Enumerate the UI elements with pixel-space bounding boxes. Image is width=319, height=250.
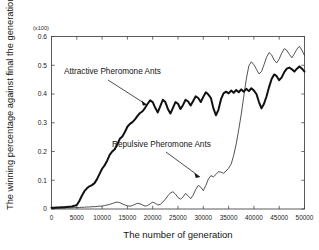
- x-axis-ticks: [52, 37, 305, 210]
- x-tick-label: 0: [50, 214, 54, 221]
- y-axis-title: The winning percentage against final the…: [5, 0, 15, 210]
- x-tick-label: 15000: [119, 214, 137, 221]
- annotation-arrow-repulsive: [194, 173, 200, 178]
- annotation-label-repulsive: Repulsive Pheromone Ants: [112, 140, 211, 149]
- y-axis-ticks: [52, 37, 305, 210]
- x-tick-label: 20000: [144, 214, 162, 221]
- x-tick-label: 35000: [220, 214, 238, 221]
- x-tick-label: 10000: [93, 214, 111, 221]
- x-tick-label: 40000: [245, 214, 263, 221]
- y-tick-label: 0: [43, 205, 47, 212]
- x-tick-label: 30000: [194, 214, 212, 221]
- x-tick-label: 25000: [169, 214, 187, 221]
- y-axis-tick-labels: 00.10.20.30.40.50.6: [38, 33, 48, 213]
- y-tick-label: 0.6: [38, 33, 47, 40]
- series-line-attractive-pheromone-ants: [52, 66, 305, 207]
- y-tick-label: 0.2: [38, 148, 47, 155]
- y-axis-scale-note: (x100): [33, 25, 49, 31]
- x-tick-label: 50000: [296, 214, 314, 221]
- annotation-label-attractive: Attractive Pheromone Ants: [64, 67, 161, 76]
- x-axis-title: The number of generation: [123, 229, 232, 240]
- plot-frame: [52, 37, 305, 210]
- y-tick-label: 0.4: [38, 90, 47, 97]
- annotation-leader-repulsive: [166, 152, 200, 177]
- y-tick-label: 0.1: [38, 177, 47, 184]
- annotation-arrow-attractive: [142, 101, 147, 106]
- annotation-leader-attractive: [108, 80, 147, 105]
- x-axis-tick-labels: 0500010000150002000025000300003500040000…: [50, 214, 314, 221]
- chart-figure: The winning percentage against final the…: [0, 0, 319, 250]
- y-tick-label: 0.3: [38, 119, 47, 126]
- line-chart: The winning percentage against final the…: [0, 0, 319, 250]
- x-tick-label: 5000: [70, 214, 85, 221]
- y-tick-label: 0.5: [38, 62, 47, 69]
- x-tick-label: 45000: [270, 214, 288, 221]
